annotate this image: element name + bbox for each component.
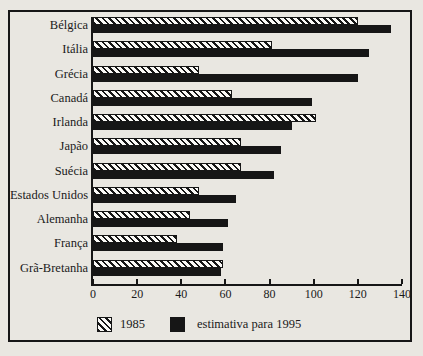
x-axis-tick-label: 40	[175, 288, 187, 300]
chart-row	[93, 17, 402, 41]
chart-row	[93, 41, 402, 65]
x-axis-tick-label: 140	[393, 288, 411, 300]
category-label: Grécia	[10, 66, 88, 90]
chart-row	[93, 260, 402, 284]
category-label: Japão	[10, 138, 88, 162]
chart-row	[93, 211, 402, 235]
bar-1985	[93, 17, 358, 25]
x-axis-tick-label: 80	[264, 288, 276, 300]
bar-estimativa-para-1995	[93, 98, 312, 106]
category-label: Bélgica	[10, 17, 88, 41]
bar-estimativa-para-1995	[93, 74, 358, 82]
x-axis-tick-label: 60	[219, 288, 231, 300]
bar-1985	[93, 66, 199, 74]
category-labels: BélgicaItáliaGréciaCanadáIrlandaJapãoSué…	[10, 17, 88, 284]
category-label: Irlanda	[10, 114, 88, 138]
legend-swatch-1985	[97, 317, 112, 332]
x-axis-tick	[357, 279, 359, 284]
category-label: França	[10, 235, 88, 259]
chart-figure: BélgicaItáliaGréciaCanadáIrlandaJapãoSué…	[0, 0, 423, 356]
category-label: Itália	[10, 41, 88, 65]
bar-1985	[93, 211, 190, 219]
bar-1985	[93, 138, 241, 146]
category-label: Grã-Bretanha	[10, 260, 88, 284]
x-axis-tick	[180, 279, 182, 284]
bar-estimativa-para-1995	[93, 25, 391, 33]
bar-estimativa-para-1995	[93, 122, 292, 130]
category-label: Canadá	[10, 90, 88, 114]
chart-row	[93, 66, 402, 90]
bar-1985	[93, 90, 232, 98]
bar-estimativa-para-1995	[93, 195, 236, 203]
x-axis-tick-label: 100	[305, 288, 323, 300]
legend-swatch-1995	[170, 317, 185, 332]
bar-1985	[93, 187, 199, 195]
bar-estimativa-para-1995	[93, 171, 274, 179]
bar-1985	[93, 114, 316, 122]
x-axis-tick-label: 120	[349, 288, 367, 300]
bar-1985	[93, 41, 272, 49]
plot-area: 020406080100120140	[91, 17, 402, 286]
x-axis-tick	[136, 279, 138, 284]
bar-1985	[93, 163, 241, 171]
chart-frame: BélgicaItáliaGréciaCanadáIrlandaJapãoSué…	[8, 10, 412, 342]
bar-estimativa-para-1995	[93, 219, 228, 227]
chart-row	[93, 235, 402, 259]
bar-estimativa-para-1995	[93, 268, 221, 276]
x-axis-tick	[224, 279, 226, 284]
chart-row	[93, 163, 402, 187]
legend: 1985 estimativa para 1995	[10, 316, 410, 334]
chart-row	[93, 138, 402, 162]
x-axis-tick	[92, 279, 94, 284]
bar-1985	[93, 235, 177, 243]
legend-label-1995: estimativa para 1995	[197, 316, 301, 333]
bar-estimativa-para-1995	[93, 146, 281, 154]
x-axis-tick-label: 20	[131, 288, 143, 300]
x-axis-tick	[269, 279, 271, 284]
bar-estimativa-para-1995	[93, 243, 223, 251]
category-label: Estados Unidos	[10, 187, 88, 211]
chart-row	[93, 90, 402, 114]
bar-estimativa-para-1995	[93, 49, 369, 57]
x-axis-tick	[313, 279, 315, 284]
chart-row	[93, 187, 402, 211]
legend-label-1985: 1985	[120, 316, 145, 333]
category-label: Alemanha	[10, 211, 88, 235]
x-axis-tick	[401, 279, 403, 284]
x-axis-tick-label: 0	[90, 288, 96, 300]
bar-1985	[93, 260, 223, 268]
chart-row	[93, 114, 402, 138]
category-label: Suécia	[10, 163, 88, 187]
